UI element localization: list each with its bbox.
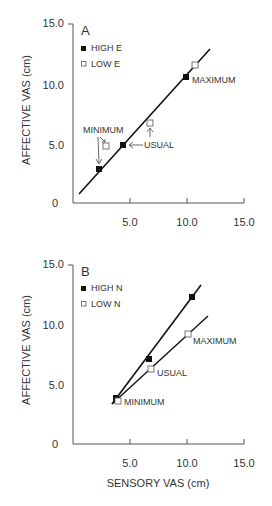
- point-high-e-usual: [120, 142, 126, 148]
- xtick-15-b: 15.0: [233, 457, 254, 469]
- legend-filled-square-icon: [81, 286, 86, 291]
- point-low-e-min: [103, 143, 109, 149]
- ytick-15-a: 15.0: [43, 17, 64, 29]
- point-high-n-usual: [146, 356, 152, 362]
- fit-line-low-n: [112, 316, 208, 404]
- ytick-0-a: 0: [52, 197, 58, 209]
- annotation-maximum-a: MAXIMUM: [192, 75, 236, 85]
- legend-low-n: LOW N: [91, 299, 121, 309]
- xtick-15-a: 15.0: [233, 216, 254, 228]
- point-low-e-usual: [147, 120, 153, 126]
- arrow-usual-a: [129, 142, 143, 148]
- ytick-0-b: 0: [52, 438, 58, 450]
- ytick-5-b: 5.0: [49, 379, 64, 391]
- point-low-n-min: [115, 398, 121, 404]
- xtick-5-a: 5.0: [122, 216, 137, 228]
- xtick-10-a: 10.0: [176, 216, 197, 228]
- point-low-e-max: [192, 62, 198, 68]
- ylabel-b: AFFECTIVE VAS (cm): [20, 295, 32, 405]
- legend-low-e: LOW E: [91, 59, 120, 69]
- arrow-minimum-a: [96, 137, 105, 164]
- figure: 15.0 10.0 5.0 0 5.0 10.0 15.0 AFFECTIVE …: [0, 0, 272, 506]
- ytick-5-a: 5.0: [49, 139, 64, 151]
- ytick-15-b: 15.0: [43, 258, 64, 270]
- chart-b: 15.0 10.0 5.0 0 5.0 10.0 15.0 SENSORY VA…: [20, 258, 255, 489]
- annotation-usual-a: USUAL: [144, 140, 174, 150]
- arrow-usual-low-a: [147, 128, 153, 137]
- ytick-10-b: 10.0: [43, 319, 64, 331]
- chart-a: 15.0 10.0 5.0 0 5.0 10.0 15.0 AFFECTIVE …: [20, 17, 255, 228]
- legend-filled-square-icon: [81, 46, 86, 51]
- point-high-e-min: [96, 166, 102, 172]
- annotation-minimum-a: MINIMUM: [83, 125, 124, 135]
- xtick-10-b: 10.0: [176, 457, 197, 469]
- legend-high-n: HIGH N: [91, 283, 123, 293]
- annotation-minimum-b: MINIMUM: [124, 397, 165, 407]
- panel-label-b: B: [81, 264, 90, 279]
- point-low-n-max: [185, 331, 191, 337]
- legend-open-square-icon: [82, 302, 87, 307]
- point-low-n-usual: [148, 366, 154, 372]
- fit-line-high-n: [112, 285, 201, 404]
- annotation-maximum-b: MAXIMUM: [193, 336, 237, 346]
- ylabel-a: AFFECTIVE VAS (cm): [20, 55, 32, 165]
- annotation-usual-b: USUAL: [157, 368, 187, 378]
- legend-open-square-icon: [82, 62, 87, 67]
- legend-high-e: HIGH E: [91, 43, 122, 53]
- panel-label-a: A: [81, 23, 90, 38]
- point-high-e-max: [183, 74, 189, 80]
- fit-line-a: [79, 49, 210, 194]
- ytick-10-a: 10.0: [43, 79, 64, 91]
- point-high-n-max: [189, 294, 195, 300]
- xtick-5-b: 5.0: [122, 457, 137, 469]
- xlabel-b: SENSORY VAS (cm): [107, 477, 210, 489]
